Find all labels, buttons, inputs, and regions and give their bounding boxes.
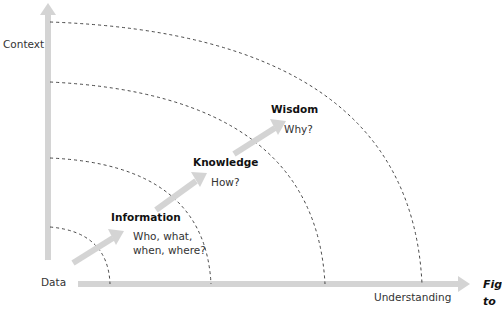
arrow-knowledge-to-wisdom (234, 119, 286, 154)
stage-knowledge-title: Knowledge (193, 156, 258, 169)
stage-wisdom-title: Wisdom (271, 103, 318, 116)
figure-caption-line-2: to (483, 293, 496, 310)
arrow-data-to-information (73, 229, 124, 263)
stage-information-title: Information (111, 211, 181, 224)
origin-label: Data (41, 276, 66, 289)
arrow-information-to-knowledge (156, 172, 207, 210)
y-axis-label: Context (3, 38, 44, 51)
x-axis-label: Understanding (374, 291, 451, 304)
x-axis-arrow (78, 276, 470, 292)
stage-information-question-line-2: when, where? (133, 244, 206, 257)
stage-information-question-line-1: Who, what, (133, 230, 192, 243)
stage-knowledge-question: How? (211, 176, 239, 189)
figure-caption-line-1: Fig (483, 276, 502, 293)
stage-wisdom-question: Why? (284, 123, 313, 136)
